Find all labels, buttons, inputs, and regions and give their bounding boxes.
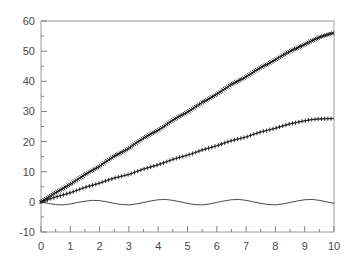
y-tick-label: -10 <box>19 226 35 238</box>
x-tick-label: 2 <box>97 240 103 252</box>
y-tick-label: 50 <box>23 45 35 57</box>
x-tick-label: 3 <box>126 240 132 252</box>
x-tick-label: 6 <box>214 240 220 252</box>
chart-figure: 012345678910 -100102030405060 <box>0 0 351 264</box>
x-tick-label: 10 <box>328 240 340 252</box>
x-tick-label: 7 <box>243 240 249 252</box>
x-tick-label: 8 <box>272 240 278 252</box>
y-tick-label: 0 <box>29 196 35 208</box>
x-tick-label: 1 <box>67 240 73 252</box>
x-tick-label: 4 <box>155 240 161 252</box>
x-tick-label: 5 <box>184 240 190 252</box>
plot-canvas: 012345678910 -100102030405060 <box>0 0 351 264</box>
y-tick-label: 60 <box>23 15 35 27</box>
y-tick-label: 10 <box>23 166 35 178</box>
x-tick-label: 0 <box>38 240 44 252</box>
y-tick-label: 30 <box>23 105 35 117</box>
y-tick-label: 40 <box>23 75 35 87</box>
x-tick-label: 9 <box>302 240 308 252</box>
y-tick-label: 20 <box>23 136 35 148</box>
x-axis-tick-labels: 012345678910 <box>38 240 340 252</box>
y-axis-tick-labels: -100102030405060 <box>19 15 35 238</box>
